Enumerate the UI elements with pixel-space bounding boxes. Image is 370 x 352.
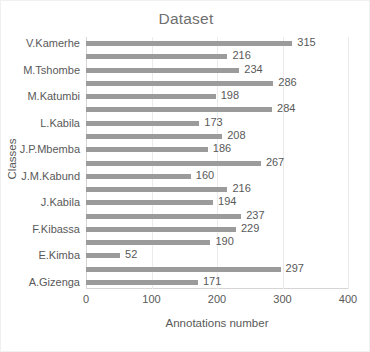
bar-value-label: 52 [125,248,137,260]
x-axis-title: Annotations number [86,317,348,329]
bar-row[interactable]: 190 [86,240,348,245]
bar[interactable] [86,280,198,285]
y-axis-tick-label: J.P.Mbemba [20,144,80,155]
bar-value-label: 160 [196,169,214,181]
bar-row[interactable]: 286 [86,81,348,86]
x-gridline [348,37,349,289]
bar-row[interactable]: 315 [86,41,348,46]
x-axis-tick-label: 300 [273,293,291,305]
bar-row[interactable]: 173 [86,121,348,126]
bar-value-label: 237 [246,209,264,221]
bar-value-label: 171 [203,275,221,287]
x-axis-tick-label: 100 [142,293,160,305]
bar-value-label: 194 [218,195,236,207]
bar-row[interactable]: 237 [86,214,348,219]
bar-value-label: 190 [215,235,233,247]
x-axis-tick-label: 400 [339,293,357,305]
bar-row[interactable]: 208 [86,134,348,139]
bar-row[interactable]: 186 [86,147,348,152]
y-axis-tick-label: J.M.Kabund [21,171,80,182]
bar[interactable] [86,94,216,99]
y-axis-tick-label: V.Kamerhe [26,38,80,49]
y-axis-tick-label: F.Kibassa [32,224,80,235]
y-axis-tick-label: A.Gizenga [29,277,80,288]
y-axis-tick-label: M.Tshombe [23,65,80,76]
bar[interactable] [86,253,120,258]
bar-row[interactable]: 52 [86,253,348,258]
y-axis-tick-label: M.Katumbi [27,91,80,102]
bar[interactable] [86,240,210,245]
bar[interactable] [86,134,222,139]
bar-row[interactable]: 267 [86,161,348,166]
plot-area: 3152162342861982841732081862671602161942… [86,37,348,289]
bar-value-label: 173 [204,116,222,128]
x-axis-tick-label: 0 [83,293,89,305]
bar-value-label: 216 [232,49,250,61]
bar-row[interactable]: 216 [86,54,348,59]
bar[interactable] [86,68,239,73]
bar-row[interactable]: 297 [86,267,348,272]
bar[interactable] [86,147,208,152]
bar[interactable] [86,174,191,179]
bar-value-label: 267 [266,156,284,168]
bar[interactable] [86,54,227,59]
bar[interactable] [86,121,199,126]
bar[interactable] [86,187,227,192]
y-axis-tick-label: L.Kabila [40,118,80,129]
bar-value-label: 208 [227,129,245,141]
bar-value-label: 315 [297,36,315,48]
bar[interactable] [86,107,272,112]
bar-value-label: 229 [241,222,259,234]
bar-value-label: 186 [213,142,231,154]
bar-row[interactable]: 171 [86,280,348,285]
bar-row[interactable]: 229 [86,227,348,232]
y-axis-tick-label: J.Kabila [41,197,80,208]
bar[interactable] [86,81,273,86]
x-axis-tick-label: 200 [208,293,226,305]
bar-value-label: 286 [278,76,296,88]
bar-value-label: 284 [277,102,295,114]
y-axis-tick-label: E.Kimba [38,250,80,261]
bar-value-label: 198 [221,89,239,101]
bar-row[interactable]: 160 [86,174,348,179]
bar[interactable] [86,41,292,46]
bar[interactable] [86,267,281,272]
bar[interactable] [86,161,261,166]
bar-row[interactable]: 216 [86,187,348,192]
bar[interactable] [86,227,236,232]
y-axis-title: Classes [6,129,18,189]
bar-value-label: 297 [286,262,304,274]
bar-row[interactable]: 194 [86,200,348,205]
bar-value-label: 234 [244,63,262,75]
bar-value-label: 216 [232,182,250,194]
bar-chart-figure: Dataset V.KamerheM.TshombeM.KatumbiL.Kab… [0,0,370,352]
chart-title: Dataset [1,10,370,28]
bar[interactable] [86,200,213,205]
bar-row[interactable]: 198 [86,94,348,99]
bar-row[interactable]: 284 [86,107,348,112]
bar-row[interactable]: 234 [86,68,348,73]
bar[interactable] [86,214,241,219]
